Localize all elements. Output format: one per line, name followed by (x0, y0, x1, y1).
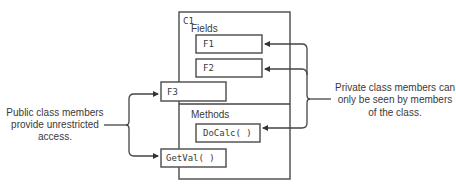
method-docalc: DoCalc( ) (196, 124, 260, 142)
method-getval: GetVal( ) (161, 149, 226, 167)
field-f2-label: F2 (203, 63, 214, 73)
public-note-line-3: access. (38, 131, 72, 142)
arrow-to-f3-icon (126, 94, 158, 125)
class-access-diagram: C1 Fields Methods F1 F2 F3 DoCalc( ) Get… (0, 0, 456, 187)
field-f2: F2 (196, 59, 262, 77)
arrow-to-getval-icon (126, 125, 158, 156)
fields-heading: Fields (191, 23, 218, 34)
method-docalc-label: DoCalc( ) (203, 128, 252, 138)
field-f1-label: F1 (203, 39, 214, 49)
methods-heading: Methods (191, 109, 229, 120)
field-f1: F1 (196, 35, 262, 53)
private-note-line-3: of the class. (368, 107, 421, 118)
public-note-line-2: provide unrestricted (11, 119, 99, 130)
public-bracket (104, 94, 158, 156)
method-getval-label: GetVal( ) (166, 153, 215, 163)
private-note-line-2: only be seen by members (338, 94, 453, 105)
field-f3: F3 (161, 82, 226, 101)
public-note: Public class members provide unrestricte… (6, 107, 103, 142)
field-f3-label: F3 (167, 87, 178, 97)
private-note: Private class members can only be seen b… (335, 82, 455, 118)
public-note-line-1: Public class members (6, 107, 103, 118)
private-note-line-1: Private class members can (335, 82, 455, 93)
